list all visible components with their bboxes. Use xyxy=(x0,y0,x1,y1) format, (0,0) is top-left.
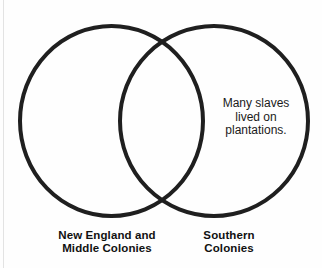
right-set-content-line-3: plantations. xyxy=(208,124,304,138)
left-circle xyxy=(20,26,203,216)
right-set-label: Southern Colonies xyxy=(180,229,278,254)
right-set-content: Many slaves lived on plantations. xyxy=(208,97,304,138)
left-set-label: New England and Middle Colonies xyxy=(36,229,178,254)
right-set-label-line-1: Southern xyxy=(180,229,278,242)
left-set-label-line-2: Middle Colonies xyxy=(36,242,178,255)
right-set-content-line-2: lived on xyxy=(208,111,304,125)
venn-diagram-page: colonies? Many slaves lived on plantatio… xyxy=(0,0,322,268)
right-set-label-line-2: Colonies xyxy=(180,242,278,255)
right-set-content-line-1: Many slaves xyxy=(208,97,304,111)
left-set-label-line-1: New England and xyxy=(36,229,178,242)
